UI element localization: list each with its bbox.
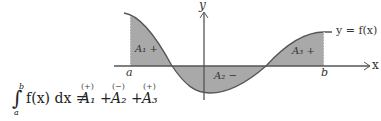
region-a2-label: A₂ −: [214, 70, 237, 81]
plus-2: +: [131, 90, 143, 106]
plus-1: +: [100, 90, 112, 106]
region-a1-label: A₁ +: [135, 43, 158, 54]
y-axis-label: y: [199, 0, 206, 12]
sign-a1: (+): [81, 82, 94, 91]
integral-equation: ∫ b a f(x) dx = A₁ (+) + A₂ (−) + A₃ (+): [12, 82, 212, 118]
x-axis-label: x: [372, 58, 379, 72]
lower-limit: a: [14, 108, 19, 117]
term-a1: A₁: [80, 90, 96, 106]
curve-label: y = f(x): [336, 24, 377, 37]
region-a1: [130, 16, 172, 66]
bound-b-label: b: [321, 66, 328, 79]
bound-a-label: a: [126, 66, 133, 79]
upper-limit: b: [19, 82, 24, 91]
sign-a2: (−): [112, 82, 125, 91]
region-a3-label: A₃ +: [292, 45, 315, 56]
term-a3: A₃: [142, 90, 158, 106]
term-a2: A₂: [111, 90, 127, 106]
integrand: f(x) dx =: [26, 90, 88, 106]
sign-a3: (+): [143, 82, 156, 91]
